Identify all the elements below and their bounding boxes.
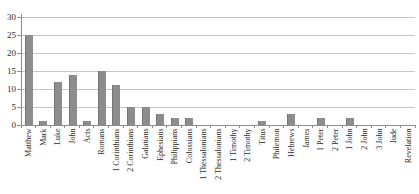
x-axis-category-label: 2 John	[357, 128, 370, 190]
x-axis-category-label: 3 John	[372, 128, 385, 190]
x-axis-category-label: Jude	[387, 128, 400, 190]
x-axis-category-label: 1 John	[343, 128, 356, 190]
x-axis-category-label: Colossians	[182, 128, 195, 190]
bar	[98, 71, 106, 125]
y-gridline	[21, 53, 415, 54]
y-axis-tick-label: 20	[0, 48, 16, 58]
y-axis-tick-label: 30	[0, 12, 16, 22]
bar	[287, 114, 295, 125]
y-gridline	[21, 17, 415, 18]
y-axis-tick-label: 0	[0, 120, 16, 130]
x-axis-category-label: 1 Peter	[314, 128, 327, 190]
x-axis-category-label: Mark	[36, 128, 49, 190]
x-axis-category-label: 1 Corinthians	[109, 128, 122, 190]
x-axis-category-label: 2 Timothy	[241, 128, 254, 190]
y-axis-tick-label: 10	[0, 84, 16, 94]
bar	[25, 35, 33, 125]
bar	[54, 82, 62, 125]
bar-chart: 051015202530MatthewMarkLukeJohnActsRoman…	[0, 0, 419, 194]
x-axis-category-label: Revelation	[401, 128, 414, 190]
x-axis-category-label: Romans	[95, 128, 108, 190]
x-axis-category-label: 2 Thessalonians	[212, 128, 225, 190]
x-axis-category-label: Philippians	[168, 128, 181, 190]
y-gridline	[21, 107, 415, 108]
x-axis-category-label: 1 Thessalonians	[197, 128, 210, 190]
x-axis-category-label: Galatians	[139, 128, 152, 190]
x-axis-category-label: Matthew	[22, 128, 35, 190]
x-axis-category-label: Acts	[80, 128, 93, 190]
y-axis	[21, 14, 22, 125]
y-gridline	[21, 35, 415, 36]
x-axis-category-label: 2 Peter	[328, 128, 341, 190]
y-gridline	[21, 89, 415, 90]
x-axis-category-label: John	[66, 128, 79, 190]
y-axis-tick-label: 25	[0, 30, 16, 40]
y-axis-tick-label: 5	[0, 102, 16, 112]
bar	[156, 114, 164, 125]
x-axis-category-label: Titus	[255, 128, 268, 190]
bar	[112, 85, 120, 125]
x-axis-category-label: 2 Corinthians	[124, 128, 137, 190]
bar	[142, 107, 150, 125]
x-axis	[17, 125, 415, 126]
x-axis-category-label: Luke	[51, 128, 64, 190]
bar	[127, 107, 135, 125]
x-axis-category-label: Philemon	[270, 128, 283, 190]
x-axis-category-label: Ephesians	[153, 128, 166, 190]
bar	[69, 75, 77, 125]
x-axis-category-label: Hebrews	[284, 128, 297, 190]
y-gridline	[21, 71, 415, 72]
x-axis-category-label: James	[299, 128, 312, 190]
x-axis-category-label: 1 Timothy	[226, 128, 239, 190]
y-axis-tick-label: 15	[0, 66, 16, 76]
